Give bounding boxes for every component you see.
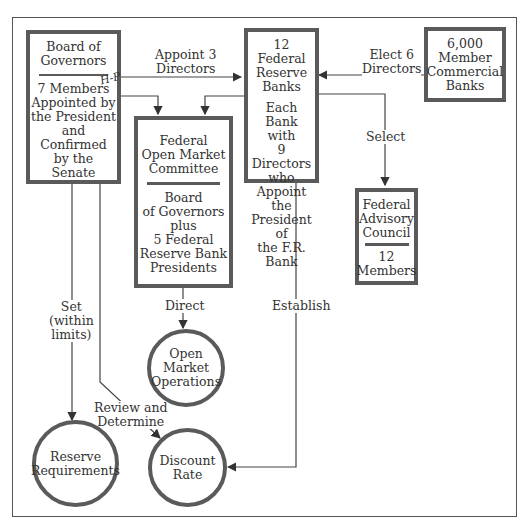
fac-body: 12 Members bbox=[357, 250, 417, 278]
set-within-limits-label: Set (within limits) bbox=[49, 300, 94, 342]
review-determine-label: Review and Determine bbox=[94, 401, 167, 429]
divider bbox=[365, 243, 409, 246]
select-label: Select bbox=[366, 130, 405, 144]
member-banks-box: 6,000 Member Commercial Banks bbox=[424, 27, 506, 102]
frb-title: 12 Federal Reserve Banks bbox=[248, 32, 315, 94]
federal-reserve-banks-box: 12 Federal Reserve Banks Each Bank with … bbox=[244, 28, 319, 183]
appoint-directors-label: Appoint 3 Directors bbox=[155, 48, 217, 76]
board-of-governors-box: Board of Governors 7 Members Appointed b… bbox=[26, 30, 121, 184]
frb-body: Each Bank with 9 Directors who Appoint t… bbox=[248, 101, 315, 269]
board-body: 7 Members Appointed by the President and… bbox=[30, 82, 117, 180]
direct-label: Direct bbox=[165, 299, 204, 313]
divider bbox=[147, 182, 220, 185]
federal-advisory-council-box: Federal Advisory Council 12 Members bbox=[355, 188, 418, 285]
establish-label: Establish bbox=[272, 299, 330, 313]
fomc-title: Federal Open Market Committee bbox=[142, 120, 226, 176]
board-title: Board of Governors bbox=[41, 34, 107, 68]
reserve-requirements-title: Reserve Requirements bbox=[31, 450, 120, 478]
fac-title: Federal Advisory Council bbox=[359, 192, 414, 240]
discount-rate-node: Discount Rate bbox=[148, 428, 227, 507]
omo-title: Open Market Operations bbox=[151, 347, 221, 389]
fomc-body: Board of Governors plus 5 Federal Reserv… bbox=[140, 191, 227, 275]
reserve-requirements-node: Reserve Requirements bbox=[32, 420, 119, 507]
member-banks-title: 6,000 Member Commercial Banks bbox=[427, 37, 504, 93]
discount-rate-title: Discount Rate bbox=[159, 454, 215, 482]
elect-directors-label: Elect 6 Directors bbox=[362, 48, 421, 76]
open-market-operations-node: Open Market Operations bbox=[147, 329, 225, 407]
fomc-box: Federal Open Market Committee Board of G… bbox=[134, 116, 233, 288]
